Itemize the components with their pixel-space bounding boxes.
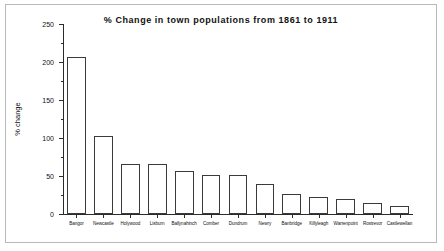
y-tick-label-150: 150 (42, 97, 54, 104)
x-tick-label-bangor: Bangor (69, 221, 84, 226)
x-tick-comber (211, 214, 212, 218)
bar-bangor (67, 57, 86, 214)
x-tick-label-dundrum: Dundrum (229, 221, 248, 226)
x-tick-rostrevor (373, 214, 374, 218)
x-tick-label-newry: Newry (259, 221, 272, 226)
bar-chart: % Change in town populations from 1861 t… (6, 5, 438, 244)
x-tick-label-warrenpoint: Warrenpoint (334, 221, 358, 226)
bar-castlewellan (390, 206, 409, 214)
bar-killyleagh (309, 197, 328, 214)
bar-comber (202, 175, 221, 214)
y-tick-50: 50 (59, 176, 64, 177)
y-minor-tick-25 (61, 195, 64, 196)
x-tick-dundrum (238, 214, 239, 218)
x-tick-label-ballynahinch: Ballynahinch (171, 221, 196, 226)
x-tick-label-newcastle: Newcastle (93, 221, 114, 226)
y-tick-label-100: 100 (42, 135, 54, 142)
x-tick-bangor (76, 214, 77, 218)
y-axis-title: % change (13, 102, 22, 135)
y-minor-tick-175 (61, 81, 64, 82)
bar-lisburn (148, 164, 167, 214)
x-tick-ballynahinch (184, 214, 185, 218)
x-tick-label-rostrevor: Rostrevor (363, 221, 382, 226)
x-tick-castlewellan (400, 214, 401, 218)
x-tick-lisburn (157, 214, 158, 218)
plot-area: % change 050100150200250 BangorNewcastle… (63, 24, 413, 214)
bar-warrenpoint (336, 199, 355, 214)
x-tick-killyleagh (319, 214, 320, 218)
x-tick-label-lisburn: Lisburn (150, 221, 165, 226)
bar-newcastle (94, 136, 113, 214)
y-tick-200: 200 (59, 62, 64, 63)
y-minor-tick-125 (61, 119, 64, 120)
y-tick-150: 150 (59, 100, 64, 101)
bar-holywood (121, 164, 140, 214)
bar-dundrum (229, 175, 248, 214)
x-tick-warrenpoint (346, 214, 347, 218)
x-tick-newry (265, 214, 266, 218)
x-tick-label-castlewellan: Castlewellan (387, 221, 412, 226)
y-tick-250: 250 (59, 24, 64, 25)
y-minor-tick-225 (61, 43, 64, 44)
bar-newry (256, 184, 275, 214)
y-tick-label-200: 200 (42, 59, 54, 66)
bar-rostrevor (363, 203, 382, 214)
x-tick-newcastle (103, 214, 104, 218)
figure-frame: % Change in town populations from 1861 t… (5, 4, 437, 243)
y-tick-label-50: 50 (46, 173, 54, 180)
x-tick-banbridge (292, 214, 293, 218)
bar-ballynahinch (175, 171, 194, 214)
y-tick-100: 100 (59, 138, 64, 139)
x-tick-label-killyleagh: Killyleagh (309, 221, 328, 226)
y-tick-0: 0 (59, 214, 64, 215)
y-tick-label-250: 250 (42, 21, 54, 28)
x-tick-holywood (130, 214, 131, 218)
x-tick-label-holywood: Holywood (120, 221, 140, 226)
y-tick-label-0: 0 (50, 211, 54, 218)
bar-banbridge (282, 194, 301, 214)
y-minor-tick-75 (61, 157, 64, 158)
x-tick-label-comber: Comber (203, 221, 219, 226)
x-tick-label-banbridge: Banbridge (282, 221, 303, 226)
